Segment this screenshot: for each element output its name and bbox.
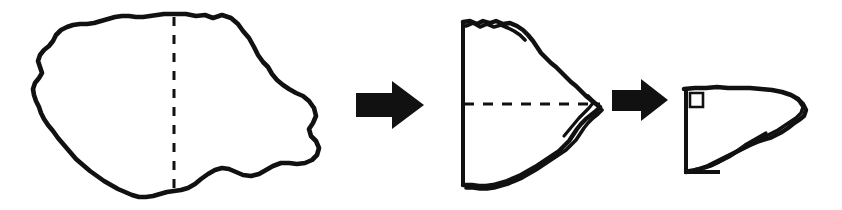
reduction-sequence-figure — [0, 0, 842, 210]
figure-canvas — [0, 0, 842, 210]
